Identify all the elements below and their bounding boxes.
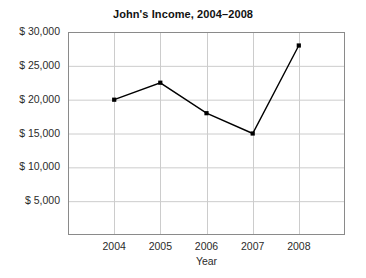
chart-title: John's Income, 2004–2008 — [0, 8, 366, 20]
plot-svg — [68, 32, 345, 235]
x-axis-tick-label: 2004 — [102, 240, 125, 252]
line-chart: John's Income, 2004–2008 $ 5,000$ 10,000… — [0, 0, 366, 278]
data-point-marker — [112, 98, 116, 102]
x-axis-tick-label: 2007 — [241, 240, 264, 252]
x-axis-tick-label: 2008 — [287, 240, 310, 252]
x-axis-tick-label: 2006 — [195, 240, 218, 252]
data-point-marker — [158, 81, 162, 85]
grid-lines — [68, 32, 345, 235]
x-axis-title: Year — [68, 255, 345, 267]
income-line — [114, 46, 299, 134]
plot-area — [68, 32, 345, 235]
data-point-marker — [204, 111, 208, 115]
x-axis-tick-label: 2005 — [149, 240, 172, 252]
data-point-marker — [251, 131, 255, 135]
data-point-marker — [297, 43, 301, 47]
